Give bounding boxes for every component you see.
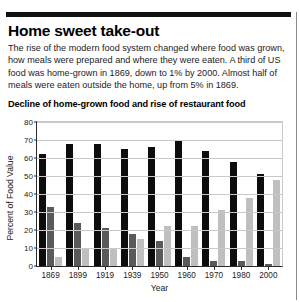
gridline bbox=[37, 158, 282, 159]
y-axis-tick-mark bbox=[34, 230, 37, 231]
chart-title: Decline of home-grown food and rise of r… bbox=[8, 99, 292, 109]
bar-series-3-light-gray-1960 bbox=[191, 226, 198, 266]
bar-series-3-light-gray-1939 bbox=[137, 239, 144, 266]
bar-chart: Percent of Food Value 186918991919193919… bbox=[0, 113, 299, 302]
x-axis-tick-mark bbox=[214, 266, 215, 270]
gridline bbox=[37, 230, 282, 231]
x-axis-label: Year bbox=[36, 283, 283, 293]
bar-series-1-black-1869 bbox=[39, 154, 46, 266]
bar-series-2-dark-gray-1950 bbox=[156, 241, 163, 266]
bar-series-3-light-gray-1899 bbox=[82, 248, 89, 266]
x-axis-tick-label: 1960 bbox=[178, 271, 196, 280]
y-axis-tick-mark bbox=[34, 122, 37, 123]
bar-series-3-light-gray-2000 bbox=[273, 180, 280, 266]
x-axis-tick-mark bbox=[78, 266, 79, 270]
y-axis-tick-mark bbox=[34, 212, 37, 213]
bar-series-3-light-gray-1919 bbox=[110, 248, 117, 266]
x-axis-tick-mark bbox=[159, 266, 160, 270]
bar-series-2-dark-gray-1869 bbox=[47, 207, 54, 266]
y-axis-tick-mark bbox=[34, 248, 37, 249]
bar-series-1-black-2000 bbox=[257, 174, 264, 266]
page-title: Home sweet take-out bbox=[8, 22, 288, 39]
y-axis-tick-mark bbox=[34, 140, 37, 141]
bar-series-3-light-gray-1980 bbox=[246, 198, 253, 266]
y-axis-tick-label: 70 bbox=[24, 136, 33, 145]
x-axis-tick-label: 1980 bbox=[232, 271, 250, 280]
y-axis-tick-label: 50 bbox=[24, 172, 33, 181]
bar-series-1-black-1980 bbox=[230, 162, 237, 266]
y-axis-tick-label: 30 bbox=[24, 208, 33, 217]
gridline bbox=[37, 140, 282, 141]
x-axis-tick-mark bbox=[241, 266, 242, 270]
bar-series-3-light-gray-1950 bbox=[164, 226, 171, 266]
x-axis-tick-mark bbox=[132, 266, 133, 270]
x-axis-tick-mark bbox=[187, 266, 188, 270]
gridline bbox=[37, 176, 282, 177]
standfirst-paragraph: The rise of the modern food system chang… bbox=[8, 42, 290, 91]
x-axis-tick-label: 1939 bbox=[123, 271, 141, 280]
y-axis-tick-mark bbox=[34, 266, 37, 267]
plot-area: 186918991919193919501960197019802000 010… bbox=[36, 121, 283, 267]
y-axis-tick-label: 40 bbox=[24, 190, 33, 199]
x-axis-tick-label: 1919 bbox=[96, 271, 114, 280]
y-axis-tick-mark bbox=[34, 194, 37, 195]
x-axis-tick-label: 2000 bbox=[259, 271, 277, 280]
bar-series-3-light-gray-1970 bbox=[218, 210, 225, 266]
gridline bbox=[37, 248, 282, 249]
x-axis-tick-label: 1970 bbox=[205, 271, 223, 280]
y-axis-tick-mark bbox=[34, 176, 37, 177]
y-axis-tick-label: 10 bbox=[24, 244, 33, 253]
y-axis-tick-label: 20 bbox=[24, 226, 33, 235]
x-axis-tick-label: 1950 bbox=[150, 271, 168, 280]
bar-series-3-light-gray-1869 bbox=[55, 257, 62, 266]
gridline bbox=[37, 194, 282, 195]
y-axis-label: Percent of Food Value bbox=[5, 138, 15, 258]
bar-series-2-dark-gray-1960 bbox=[183, 257, 190, 266]
gridline bbox=[37, 122, 282, 123]
x-axis-tick-label: 1899 bbox=[69, 271, 87, 280]
y-axis-tick-label: 0 bbox=[29, 262, 33, 271]
gridline bbox=[37, 212, 282, 213]
y-axis-tick-label: 60 bbox=[24, 154, 33, 163]
bar-series-2-dark-gray-1939 bbox=[129, 234, 136, 266]
infographic-panel: Home sweet take-out The rise of the mode… bbox=[0, 0, 299, 302]
x-axis-tick-mark bbox=[268, 266, 269, 270]
y-axis-tick-mark bbox=[34, 158, 37, 159]
x-axis-tick-mark bbox=[51, 266, 52, 270]
x-axis-tick-label: 1869 bbox=[42, 271, 60, 280]
y-axis-tick-label: 80 bbox=[24, 118, 33, 127]
top-rule-divider bbox=[6, 12, 291, 17]
x-axis-tick-mark bbox=[105, 266, 106, 270]
